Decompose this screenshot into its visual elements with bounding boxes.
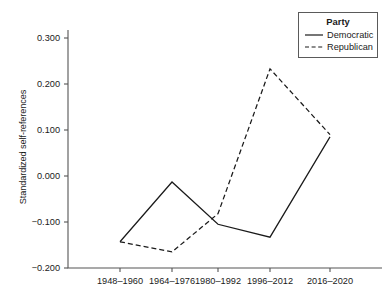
legend-item-republican[interactable]: Republican: [304, 41, 372, 53]
chart-container: Standardized self-references 0.3000.2000…: [0, 0, 386, 296]
series-line-republican: [120, 69, 330, 252]
legend-label-republican: Republican: [327, 41, 373, 53]
x-axis-tick-label: 2016–2020: [294, 276, 366, 287]
legend-line-dashed-icon: [304, 42, 324, 52]
legend-label-democratic: Democratic: [327, 29, 373, 41]
legend-title: Party: [304, 16, 372, 28]
legend-item-democratic[interactable]: Democratic: [304, 29, 372, 41]
axis-spine: [68, 30, 382, 268]
legend: Party Democratic Republican: [298, 12, 378, 58]
series-line-democratic: [120, 137, 330, 242]
legend-line-solid-icon: [304, 30, 324, 40]
